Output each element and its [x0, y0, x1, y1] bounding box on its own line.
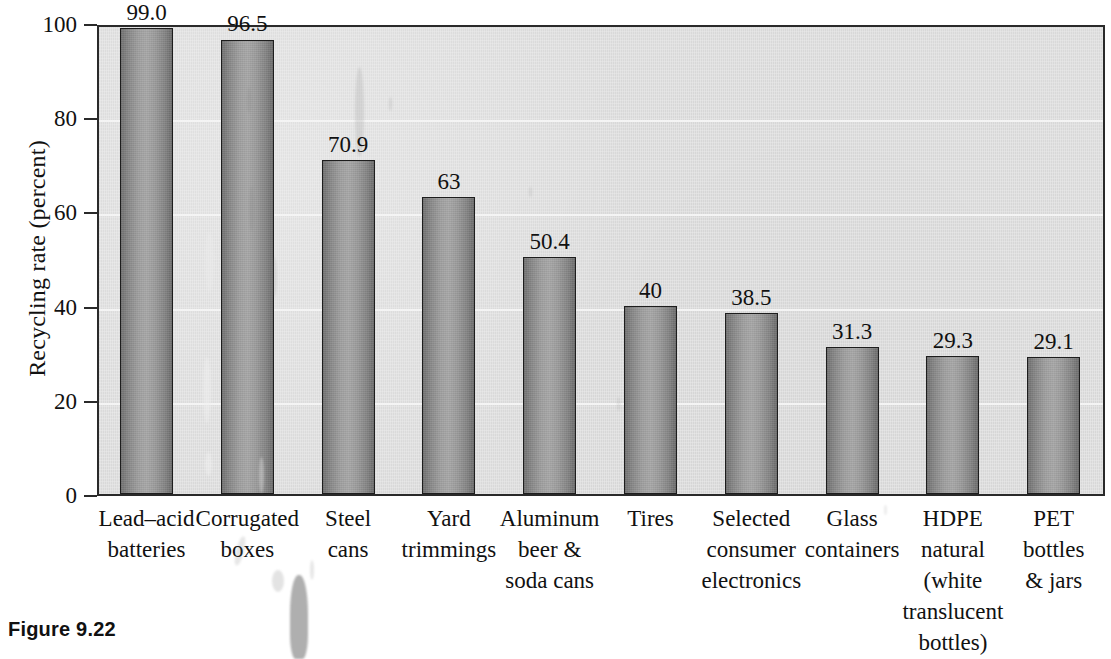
figure-caption: Figure 9.22	[8, 618, 116, 641]
bar-value-label: 70.9	[298, 132, 399, 158]
y-tick-mark-0	[84, 495, 97, 497]
bar-value-label: 50.4	[499, 229, 600, 255]
y-tick-label-100: 100	[21, 12, 77, 38]
bar[interactable]	[120, 28, 173, 494]
y-tick-mark-80	[84, 118, 97, 120]
bar[interactable]	[826, 347, 879, 494]
plot-area	[97, 25, 1105, 496]
scan-artifact	[205, 452, 212, 476]
x-axis-label: PETbottles& jars	[982, 503, 1111, 596]
bar-value-label: 38.5	[701, 285, 802, 311]
x-axis-label-line: soda cans	[478, 565, 622, 596]
y-tick-label-20: 20	[21, 389, 77, 415]
x-axis-label-line: translucent	[881, 596, 1025, 627]
bar[interactable]	[322, 160, 375, 494]
x-axis-label-line: bottles)	[881, 627, 1025, 658]
bar-value-label: 99.0	[96, 0, 197, 26]
x-axis-label-line: beer &	[478, 534, 622, 565]
bar[interactable]	[624, 306, 677, 494]
bar[interactable]	[221, 40, 274, 495]
y-tick-label-60: 60	[21, 200, 77, 226]
y-tick-mark-20	[84, 401, 97, 403]
bar[interactable]	[1027, 357, 1080, 494]
x-axis-label-line: PET	[982, 503, 1111, 534]
bar[interactable]	[523, 257, 576, 494]
bar[interactable]	[422, 197, 475, 494]
scan-artifact	[529, 187, 532, 197]
y-tick-label-0: 0	[21, 483, 77, 509]
bar-value-label: 29.1	[1003, 329, 1104, 355]
y-tick-label-80: 80	[21, 106, 77, 132]
scan-artifact	[389, 97, 392, 111]
y-tick-mark-40	[84, 307, 97, 309]
scan-artifact	[290, 575, 308, 659]
y-tick-label-40: 40	[21, 295, 77, 321]
bar-value-label: 96.5	[197, 11, 298, 37]
bar-value-label: 29.3	[902, 328, 1003, 354]
x-axis-label-line: electronics	[679, 565, 823, 596]
scan-artifact	[272, 570, 284, 592]
y-tick-mark-60	[84, 212, 97, 214]
bar[interactable]	[725, 313, 778, 494]
bar-value-label: 31.3	[802, 319, 903, 345]
x-axis-label-line: bottles	[982, 534, 1111, 565]
bar[interactable]	[926, 356, 979, 494]
scan-artifact	[205, 232, 214, 292]
x-axis-label-line: & jars	[982, 565, 1111, 596]
bar-value-label: 63	[398, 169, 499, 195]
figure-container: Recycling rate (percent) 020406080100 Le…	[0, 0, 1111, 659]
scan-artifact	[203, 357, 211, 423]
bar-value-label: 40	[600, 278, 701, 304]
